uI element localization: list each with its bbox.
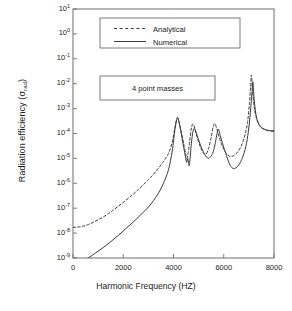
x-axis-tick-label: 4000 (165, 263, 182, 272)
x-axis-tick-label: 8000 (266, 263, 283, 272)
legend-label-analytical: Analytical (153, 25, 186, 34)
annotation-label: 4 point masses (101, 84, 214, 93)
figure-caption (2, 302, 292, 311)
figure: Radiation efficiency (σrad) 10110010-110… (0, 0, 292, 311)
series-line-numerical (73, 82, 274, 264)
x-axis-tick-label: 2000 (115, 263, 132, 272)
legend-label-numerical: Numerical (153, 38, 187, 47)
x-axis-tick-label: 6000 (215, 263, 232, 272)
x-axis-tick-marks (73, 254, 274, 258)
x-axis-tick-label: 0 (71, 263, 75, 272)
x-axis-tick-labels: 02000400060008000 (0, 263, 292, 275)
x-axis-title: Harmonic Frequency (HZ) (0, 281, 292, 291)
y-axis-tick-marks (73, 9, 77, 258)
